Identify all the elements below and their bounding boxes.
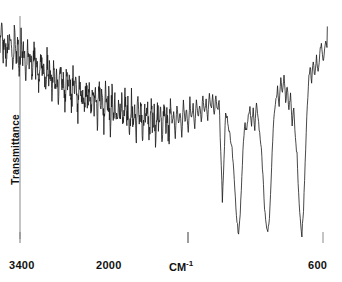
x-tick-label-3400: 3400 bbox=[9, 259, 35, 271]
spectrum-plot bbox=[0, 0, 342, 282]
spectrum-trace bbox=[0, 23, 327, 237]
y-axis-title: Transmittance bbox=[10, 102, 21, 198]
x-axis-title: CM-1 bbox=[169, 261, 193, 273]
spectrum-trace-group bbox=[0, 23, 327, 237]
x-tick-label-600: 600 bbox=[308, 259, 327, 271]
x-axis-title-base: CM bbox=[169, 261, 186, 273]
ir-spectrum-figure: 3400 2000 600 CM-1 Transmittance bbox=[0, 0, 342, 282]
x-axis-title-superscript: -1 bbox=[186, 259, 193, 268]
x-tick-label-2000: 2000 bbox=[96, 259, 122, 271]
axis-lines bbox=[20, 16, 323, 243]
